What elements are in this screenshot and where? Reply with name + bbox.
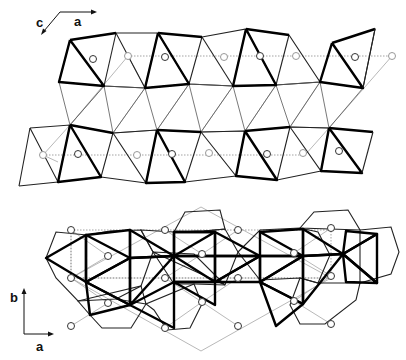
bold-octahedra-upper [59, 29, 375, 88]
axis-indicator-bottom: b a [10, 288, 54, 354]
axis-indicator-top: c a [36, 10, 97, 36]
axis-label-c: c [36, 15, 43, 30]
axis-label-a: a [74, 14, 82, 29]
top-panel: c a [19, 10, 396, 187]
axis-label-a-bottom: a [36, 339, 44, 354]
axis-label-b: b [10, 290, 18, 305]
crystal-structure-diagram: c a [0, 0, 406, 360]
cations-top [40, 53, 396, 159]
bottom-panel: b a [10, 207, 399, 354]
bold-octahedra-lower [58, 125, 373, 183]
